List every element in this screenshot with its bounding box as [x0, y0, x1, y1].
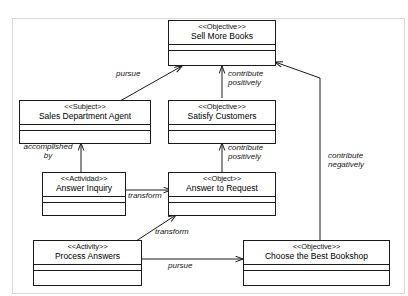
edge-label-accomplished-by: accomplished by [15, 143, 81, 161]
node-header: <<Object>> Answer to Request [169, 173, 275, 197]
edge-label-line1: accomplished [24, 142, 73, 151]
node-answer-to-request[interactable]: <<Object>> Answer to Request [168, 172, 276, 216]
edge-label-line2: negatively [328, 160, 364, 169]
edge-label-line2: positively [228, 152, 261, 161]
node-operations-compartment [43, 203, 125, 210]
node-name: Sell More Books [172, 32, 272, 41]
diagram-canvas: pursue contribute positively accomplishe… [0, 0, 408, 296]
edge-label-contribute-negatively: contribute negatively [328, 152, 390, 170]
node-operations-compartment [169, 203, 275, 210]
node-stereotype: <<Objective>> [172, 23, 272, 31]
edge-label-line1: contribute [328, 151, 363, 160]
node-name: Answer to Request [172, 184, 272, 193]
edge-label-line2: positively [228, 78, 261, 87]
edge-label-contribute-positively-mid: contribute positively [228, 144, 288, 162]
node-stereotype: <<Objective>> [247, 243, 386, 251]
node-name: Satisfy Customers [172, 112, 272, 121]
node-name: Sales Department Agent [23, 112, 147, 121]
node-header: <<Objective>> Satisfy Customers [169, 101, 275, 125]
node-header: <<Actividad>> Answer Inquiry [43, 173, 125, 197]
edge-label-pursue-top: pursue [116, 70, 140, 79]
node-header: <<Subject>> Sales Department Agent [20, 101, 150, 125]
edge-label-line1: contribute [228, 143, 263, 152]
node-sales-department-agent[interactable]: <<Subject>> Sales Department Agent [19, 100, 151, 144]
node-satisfy-customers[interactable]: <<Objective>> Satisfy Customers [168, 100, 276, 144]
node-name: Answer Inquiry [46, 184, 122, 193]
node-name: Choose the Best Bookshop [247, 252, 386, 261]
node-header: <<Objective>> Choose the Best Bookshop [244, 241, 389, 265]
node-answer-inquiry[interactable]: <<Actividad>> Answer Inquiry [42, 172, 126, 216]
edge-label-contribute-positively-top: contribute positively [228, 70, 288, 88]
node-process-answers[interactable]: <<Activity>> Process Answers [33, 240, 142, 286]
edge-label-pursue-bottom: pursue [168, 262, 192, 271]
node-stereotype: <<Subject>> [23, 103, 147, 111]
edge-label-transform-upper: transform [128, 192, 162, 201]
node-operations-compartment [169, 131, 275, 138]
node-sell-more-books[interactable]: <<Objective>> Sell More Books [168, 20, 276, 66]
node-choose-the-best-bookshop[interactable]: <<Objective>> Choose the Best Bookshop [243, 240, 390, 286]
node-operations-compartment [244, 271, 389, 278]
node-operations-compartment [20, 131, 150, 138]
node-operations-compartment [169, 51, 275, 58]
node-stereotype: <<Activity>> [37, 243, 138, 251]
edge-label-line1: contribute [228, 69, 263, 78]
node-stereotype: <<Actividad>> [46, 175, 122, 183]
edge-label-transform-lower: transform [155, 228, 189, 237]
node-stereotype: <<Objective>> [172, 103, 272, 111]
node-stereotype: <<Object>> [172, 175, 272, 183]
edge-label-line2: by [44, 151, 52, 160]
node-name: Process Answers [37, 252, 138, 261]
node-operations-compartment [34, 271, 141, 278]
node-header: <<Activity>> Process Answers [34, 241, 141, 265]
node-header: <<Objective>> Sell More Books [169, 21, 275, 45]
